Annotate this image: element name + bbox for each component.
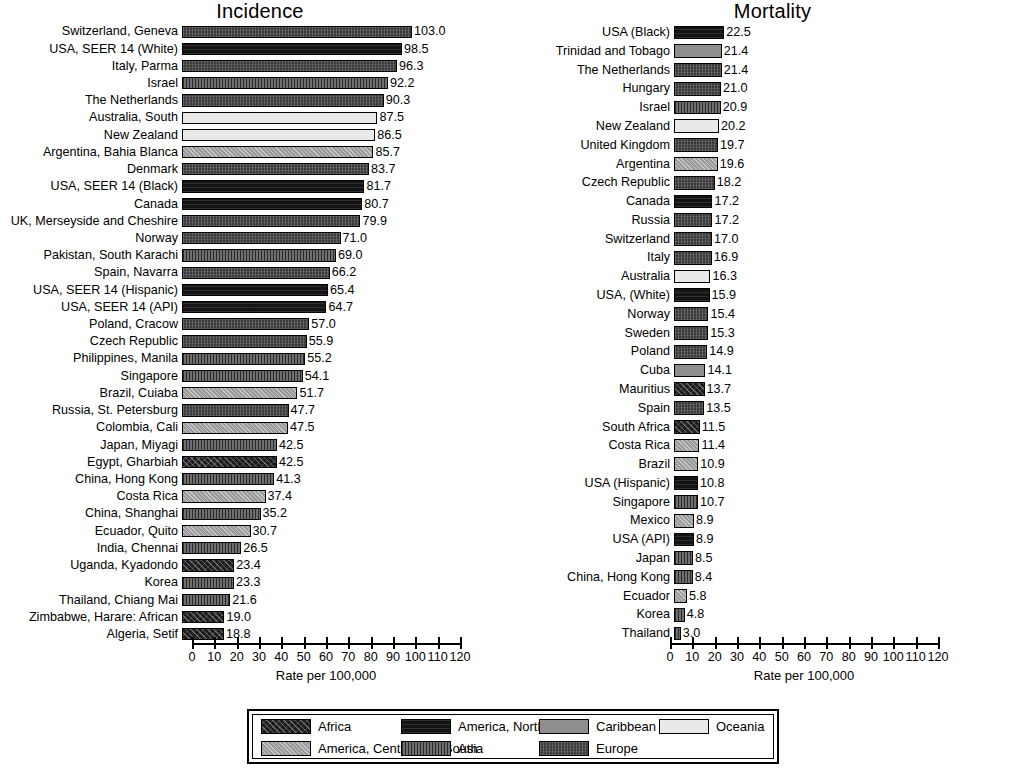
bar-row[interactable]: Spain13.5	[520, 399, 1025, 418]
bar[interactable]	[182, 163, 369, 175]
bar[interactable]	[182, 559, 234, 571]
bar-row[interactable]: South Africa11.5	[520, 417, 1025, 436]
bar[interactable]	[674, 495, 698, 509]
bar[interactable]	[674, 213, 712, 227]
bar-row[interactable]: Norway15.4	[520, 305, 1025, 324]
bar[interactable]	[182, 232, 341, 244]
bar-row[interactable]: Czech Republic55.9	[0, 333, 520, 350]
legend-item-anorth[interactable]: America, North	[401, 719, 545, 734]
bar-row[interactable]: China, Shanghai35.2	[0, 505, 520, 522]
bar[interactable]	[182, 249, 336, 261]
bar-row[interactable]: Russia17.2	[520, 211, 1025, 230]
bar-row[interactable]: Australia, South87.5	[0, 109, 520, 126]
bar[interactable]	[674, 514, 694, 528]
bar-row[interactable]: Costa Rica37.4	[0, 488, 520, 505]
bar-row[interactable]: Brazil, Cuiaba51.7	[0, 385, 520, 402]
bar-row[interactable]: India, Chennai26.5	[0, 540, 520, 557]
bar[interactable]	[674, 176, 715, 190]
bar-row[interactable]: USA, (White)15.9	[520, 286, 1025, 305]
bar-row[interactable]: Norway71.0	[0, 230, 520, 247]
bar[interactable]	[182, 129, 375, 141]
bar-row[interactable]: Korea23.3	[0, 574, 520, 591]
bar-row[interactable]: Argentina19.6	[520, 154, 1025, 173]
bar-row[interactable]: Egypt, Gharbiah42.5	[0, 453, 520, 470]
bar[interactable]	[182, 60, 397, 72]
bar-row[interactable]: Switzerland17.0	[520, 230, 1025, 249]
bar[interactable]	[182, 301, 326, 313]
bar[interactable]	[182, 112, 377, 124]
bar[interactable]	[674, 608, 685, 622]
bar-row[interactable]: Australia16.3	[520, 267, 1025, 286]
bar[interactable]	[182, 422, 288, 434]
bar[interactable]	[674, 157, 718, 171]
bar-row[interactable]: Mexico8.9	[520, 511, 1025, 530]
bar[interactable]	[182, 611, 224, 623]
bar[interactable]	[182, 577, 234, 589]
bar-row[interactable]: Thailand3.0	[520, 624, 1025, 643]
bar[interactable]	[674, 63, 722, 77]
bar-row[interactable]: Cuba14.1	[520, 361, 1025, 380]
bar[interactable]	[182, 43, 402, 55]
bar-row[interactable]: Pakistan, South Karachi69.0	[0, 247, 520, 264]
legend-item-asia[interactable]: Asia	[401, 741, 483, 756]
bar-row[interactable]: Switzerland, Geneva103.0	[0, 23, 520, 40]
bar-row[interactable]: Mauritius13.7	[520, 380, 1025, 399]
bar[interactable]	[674, 307, 708, 321]
bar-row[interactable]: Argentina, Bahia Blanca85.7	[0, 144, 520, 161]
legend-item-europe[interactable]: Europe	[539, 741, 638, 756]
bar-row[interactable]: Thailand, Chiang Mai21.6	[0, 591, 520, 608]
bar-row[interactable]: Zimbabwe, Harare: African19.0	[0, 608, 520, 625]
bar[interactable]	[674, 44, 722, 58]
bar[interactable]	[182, 146, 373, 158]
bar-row[interactable]: Denmark83.7	[0, 161, 520, 178]
bar[interactable]	[674, 326, 708, 340]
bar-row[interactable]: Ecuador5.8	[520, 586, 1025, 605]
bar-row[interactable]: Israel20.9	[520, 98, 1025, 117]
bar[interactable]	[674, 627, 681, 641]
bar-row[interactable]: USA (Black)22.5	[520, 23, 1025, 42]
bar-row[interactable]: USA, SEER 14 (Hispanic)65.4	[0, 281, 520, 298]
bar[interactable]	[182, 490, 266, 502]
bar[interactable]	[182, 508, 261, 520]
bar-row[interactable]: Colombia, Cali47.5	[0, 419, 520, 436]
bar[interactable]	[674, 101, 721, 115]
bar[interactable]	[182, 456, 277, 468]
bar-row[interactable]: Singapore54.1	[0, 367, 520, 384]
bar[interactable]	[674, 420, 700, 434]
bar-row[interactable]: Singapore10.7	[520, 493, 1025, 512]
bar[interactable]	[674, 401, 704, 415]
bar[interactable]	[674, 251, 712, 265]
bar[interactable]	[182, 387, 297, 399]
bar[interactable]	[182, 198, 362, 210]
bar-row[interactable]: Ecuador, Quito30.7	[0, 522, 520, 539]
bar[interactable]	[674, 138, 718, 152]
bar[interactable]	[182, 628, 224, 640]
bar[interactable]	[182, 267, 330, 279]
bar-row[interactable]: USA (API)8.9	[520, 530, 1025, 549]
bar-row[interactable]: Canada80.7	[0, 195, 520, 212]
bar[interactable]	[674, 270, 710, 284]
bar[interactable]	[674, 457, 698, 471]
bar[interactable]	[674, 119, 719, 133]
bar-row[interactable]: The Netherlands21.4	[520, 61, 1025, 80]
bar-row[interactable]: China, Hong Kong8.4	[520, 568, 1025, 587]
bar[interactable]	[182, 439, 277, 451]
bar-row[interactable]: Trinidad and Tobago21.4	[520, 42, 1025, 61]
bar-row[interactable]: USA, SEER 14 (Black)81.7	[0, 178, 520, 195]
bar-row[interactable]: UK, Merseyside and Cheshire79.9	[0, 212, 520, 229]
bar[interactable]	[182, 370, 303, 382]
bar-row[interactable]: Philippines, Manila55.2	[0, 350, 520, 367]
bar[interactable]	[182, 542, 241, 554]
bar-row[interactable]: Canada17.2	[520, 192, 1025, 211]
bar-row[interactable]: Hungary21.0	[520, 79, 1025, 98]
bar-row[interactable]: Costa Rica11.4	[520, 436, 1025, 455]
bar-row[interactable]: United Kingdom19.7	[520, 136, 1025, 155]
bar-row[interactable]: Czech Republic18.2	[520, 173, 1025, 192]
bar-row[interactable]: Poland14.9	[520, 342, 1025, 361]
bar-row[interactable]: Korea4.8	[520, 605, 1025, 624]
bar-row[interactable]: Spain, Navarra66.2	[0, 264, 520, 281]
bar[interactable]	[182, 353, 305, 365]
bar[interactable]	[182, 594, 230, 606]
bar[interactable]	[182, 335, 307, 347]
bar-row[interactable]: China, Hong Kong41.3	[0, 471, 520, 488]
